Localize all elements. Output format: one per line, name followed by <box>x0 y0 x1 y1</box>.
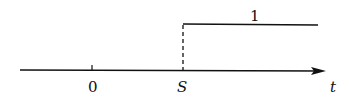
time-axis <box>20 70 320 71</box>
level-label: 1 <box>250 9 260 24</box>
origin-label: 0 <box>88 80 98 95</box>
axis-label: t <box>330 80 336 95</box>
step-diagram <box>0 0 349 100</box>
step-label: S <box>177 80 187 95</box>
